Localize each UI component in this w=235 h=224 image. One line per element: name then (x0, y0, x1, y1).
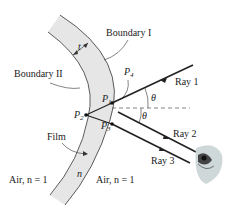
angle-label-1: θ (151, 92, 156, 103)
ray-2-label: Ray 2 (173, 128, 197, 139)
angle-arc-2 (139, 108, 141, 123)
film-index-label: n (77, 168, 82, 179)
eye-icon (195, 145, 222, 184)
thickness-label: t (78, 41, 81, 52)
boundary-2-label: Boundary II (14, 68, 63, 79)
thin-film-diagram: t Boundary I Boundary II P4 P1 P2 P3 θ θ… (0, 0, 235, 224)
ray-2-arrow (163, 135, 170, 139)
angle-arc-1 (145, 88, 148, 108)
angle-label-2: θ (142, 110, 147, 121)
boundary-1-leader (104, 40, 128, 60)
boundary-1-label: Boundary I (106, 27, 151, 38)
air-right-label: Air, n = 1 (96, 174, 135, 185)
ray-3-arrow (159, 147, 166, 151)
film-label: Film (47, 131, 66, 142)
ray-3-label: Ray 3 (151, 155, 175, 166)
air-left-label: Air, n = 1 (9, 174, 48, 185)
point-p2 (84, 113, 88, 117)
diagram-canvas: t Boundary I Boundary II P4 P1 P2 P3 θ θ… (0, 0, 235, 224)
point-p3 (110, 122, 114, 126)
ray-1-label: Ray 1 (175, 76, 199, 87)
p4-label: P4 (123, 66, 134, 79)
boundary-2-leader (50, 83, 80, 88)
p2-label: P2 (73, 109, 84, 122)
